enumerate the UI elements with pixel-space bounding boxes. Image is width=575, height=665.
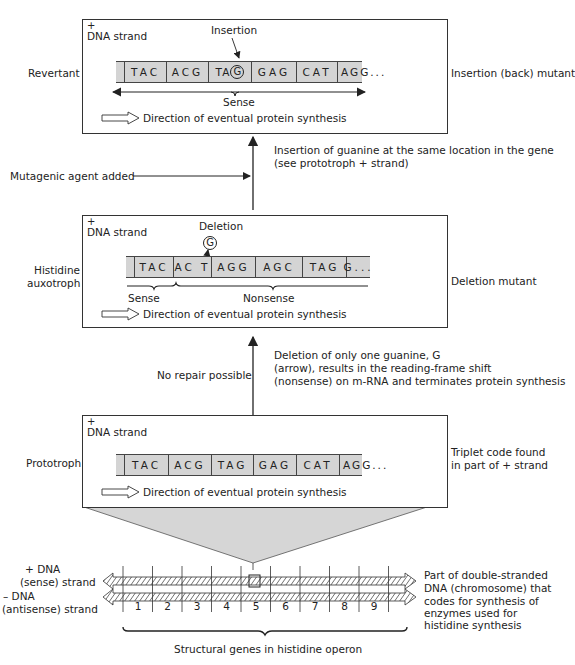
direction-legend: Direction of eventual protein synthesis bbox=[101, 485, 347, 499]
gene-number: 2 bbox=[164, 600, 171, 613]
direction-legend: Direction of eventual protein synthesis bbox=[101, 111, 347, 125]
no-repair-label: No repair possible bbox=[157, 369, 252, 382]
chromosome-desc-line1: Part of double-stranded bbox=[424, 569, 548, 582]
auxotroph-panel: + DNA strand Deletion G TAC AC T AGG AGC… bbox=[82, 215, 448, 328]
triplet-code-line2: in part of + strand bbox=[451, 459, 548, 472]
deletion-mutant-label: Deletion mutant bbox=[451, 275, 537, 288]
direction-legend: Direction of eventual protein synthesis bbox=[101, 307, 347, 321]
minus-dna-strand bbox=[103, 589, 416, 605]
gene-number: 6 bbox=[282, 600, 289, 613]
histidine-label: Histidine bbox=[34, 264, 80, 277]
hollow-arrow-icon bbox=[101, 307, 141, 321]
plus-dna-label: + DNA bbox=[25, 563, 60, 576]
prototroph-label: Prototroph bbox=[26, 457, 81, 470]
codon-with-deletion: AC T bbox=[173, 257, 211, 277]
prototroph-panel: + DNA strand TAC ACG TAG GAG CAT AGG... … bbox=[82, 415, 448, 508]
triplet-code-line1: Triplet code found bbox=[451, 446, 545, 459]
revertant-panel: + DNA strand Insertion TAC ACG TAG GAG C… bbox=[82, 19, 448, 134]
gene-number: 9 bbox=[371, 600, 378, 613]
gene-number: 4 bbox=[223, 600, 230, 613]
codon: ACG bbox=[166, 62, 208, 82]
gene-number: 1 bbox=[135, 600, 142, 613]
gene-number: 5 bbox=[253, 600, 260, 613]
sense-strand-label: (sense) strand bbox=[20, 576, 96, 589]
operon-brace bbox=[123, 627, 407, 635]
codon: TAC bbox=[124, 455, 168, 475]
codon: AGC bbox=[255, 257, 302, 277]
codon: GAG bbox=[251, 62, 296, 82]
revertant-label: Revertant bbox=[28, 67, 80, 80]
hollow-arrow-icon bbox=[101, 485, 141, 499]
codon: TAC bbox=[124, 62, 166, 82]
codon: CAT bbox=[296, 62, 337, 82]
insertion-explanation-line1: Insertion of guanine at the same locatio… bbox=[274, 144, 554, 157]
operon-label: Structural genes in histidine operon bbox=[174, 643, 362, 656]
deletion-explanation-line3: (nonsense) on m-RNA and terminates prote… bbox=[274, 375, 565, 388]
gene-number: 3 bbox=[194, 600, 201, 613]
minus-dna-label: – DNA bbox=[3, 590, 35, 603]
prototroph-codon-strand: TAC ACG TAG GAG CAT AGG... bbox=[116, 454, 362, 476]
codon: AGG... bbox=[337, 62, 362, 82]
insertion-mutant-label: Insertion (back) mutant bbox=[451, 67, 575, 80]
sense-label: Sense bbox=[223, 96, 255, 109]
antisense-strand-label: (antisense) strand bbox=[2, 603, 98, 616]
auxotroph-label: auxotroph bbox=[27, 277, 80, 290]
gene-number: 7 bbox=[312, 600, 319, 613]
codon: ACG bbox=[168, 455, 211, 475]
codon: TAG bbox=[302, 257, 346, 277]
hollow-arrow-icon bbox=[101, 111, 141, 125]
dna-strand-label: DNA strand bbox=[87, 426, 147, 438]
zoom-funnel bbox=[84, 507, 427, 563]
gene-number: 8 bbox=[341, 600, 348, 613]
codon: GAG bbox=[253, 455, 296, 475]
mutagenic-agent-label: Mutagenic agent added bbox=[10, 170, 135, 183]
auxotroph-codon-strand: TAC AC T AGG AGC TAG G... bbox=[126, 256, 370, 278]
deletion-explanation-line1: Deletion of only one guanine, G bbox=[274, 349, 441, 362]
deletion-explanation-line2: (arrow), results in the reading-frame sh… bbox=[274, 362, 491, 375]
codon-with-insertion: TAG bbox=[208, 62, 251, 82]
codon: AGG... bbox=[339, 455, 362, 475]
revertant-codon-strand: TAC ACG TAG GAG CAT AGG... bbox=[116, 61, 362, 83]
inserted-guanine: G bbox=[230, 65, 244, 79]
sense-label: Sense bbox=[128, 292, 160, 305]
chromosome-desc-line2: DNA (chromosome) that bbox=[424, 582, 552, 595]
chromosome-desc-line5: histidine synthesis bbox=[424, 619, 522, 632]
codon: TAC bbox=[134, 257, 173, 277]
codon: TAG bbox=[211, 455, 253, 475]
codon: G... bbox=[346, 257, 370, 277]
codon: CAT bbox=[296, 455, 339, 475]
codon: AGG bbox=[211, 257, 255, 277]
insertion-explanation-line2: (see prototroph + strand) bbox=[274, 157, 409, 170]
nonsense-label: Nonsense bbox=[243, 292, 294, 305]
